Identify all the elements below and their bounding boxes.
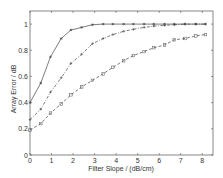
series-line-solid-star bbox=[30, 24, 206, 103]
x-tick-label: 1 bbox=[50, 157, 54, 164]
series-line-dashdot-plus bbox=[30, 24, 206, 120]
square-marker-icon bbox=[132, 54, 135, 57]
plus-marker-icon bbox=[163, 24, 166, 27]
x-tick-label: 2 bbox=[71, 157, 75, 164]
square-marker-icon bbox=[194, 35, 197, 38]
x-tick-label: 6 bbox=[157, 157, 161, 164]
star-marker-icon bbox=[102, 23, 105, 26]
star-marker-icon bbox=[143, 23, 146, 26]
x-tick-label: 7 bbox=[179, 157, 183, 164]
series-line-dashed-square bbox=[30, 35, 206, 131]
star-marker-icon bbox=[80, 26, 83, 29]
plus-marker-icon bbox=[60, 76, 63, 79]
chart: 01234567800.20.40.60.81 Filter Slope / (… bbox=[0, 0, 223, 178]
x-tick-label: 8 bbox=[200, 157, 204, 164]
star-marker-icon bbox=[112, 23, 115, 26]
plus-marker-icon bbox=[102, 37, 105, 40]
y-axis-label: Array Error / dB bbox=[10, 64, 18, 113]
plus-marker-icon bbox=[112, 33, 115, 36]
star-marker-icon bbox=[91, 23, 94, 26]
plus-marker-icon bbox=[122, 30, 125, 33]
star-marker-icon bbox=[70, 29, 73, 32]
y-tick-label: 0.2 bbox=[18, 125, 28, 132]
axes-box bbox=[30, 11, 213, 155]
y-tick-label: 0.4 bbox=[18, 99, 28, 106]
star-marker-icon bbox=[132, 23, 135, 26]
star-marker-icon bbox=[29, 101, 32, 104]
plus-marker-icon bbox=[132, 28, 135, 31]
x-tick-label: 0 bbox=[28, 157, 32, 164]
star-marker-icon bbox=[60, 37, 63, 40]
x-tick-label: 3 bbox=[93, 157, 97, 164]
y-tick-label: 0.6 bbox=[18, 73, 28, 80]
y-tick-label: 0 bbox=[24, 152, 28, 159]
x-axis-label: Filter Slope / (dB/cm) bbox=[88, 165, 154, 173]
y-tick-label: 1 bbox=[24, 21, 28, 28]
y-tick-label: 0.8 bbox=[18, 47, 28, 54]
plus-marker-icon bbox=[143, 26, 146, 29]
star-marker-icon bbox=[49, 56, 52, 59]
plot-area: 01234567800.20.40.60.81 bbox=[18, 11, 213, 164]
star-marker-icon bbox=[122, 23, 125, 26]
x-tick-label: 4 bbox=[114, 157, 118, 164]
x-tick-label: 5 bbox=[136, 157, 140, 164]
star-marker-icon bbox=[39, 82, 42, 85]
